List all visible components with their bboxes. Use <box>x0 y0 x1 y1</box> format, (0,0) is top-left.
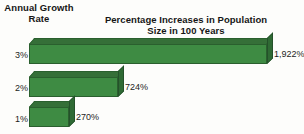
bar-row: 3% 1,922% <box>0 38 304 70</box>
bar-front-face <box>29 44 267 64</box>
chart-title-line-1: Percentage Increases in Population <box>78 14 294 25</box>
bar-row: 2% 724% <box>0 71 304 103</box>
bar-front-face <box>29 77 118 97</box>
value-label: 270% <box>76 112 99 123</box>
bar-3-percent <box>29 38 267 70</box>
chart-title: Percentage Increases in Population Size … <box>78 14 294 36</box>
bar-row: 1% 270% <box>0 101 304 133</box>
bar-side-face <box>69 95 75 127</box>
plot-area: 3% 1,922% 2% 724% 1% 270% <box>0 36 304 134</box>
bar-side-face <box>118 65 124 97</box>
y-axis-title-line-3: Rate <box>29 13 50 24</box>
bar-side-face <box>267 32 273 64</box>
chart-title-line-2: Size in 100 Years <box>78 25 294 36</box>
y-axis-title-line-1: Annual <box>4 2 37 13</box>
category-label: 1% <box>6 114 28 125</box>
bar-1-percent <box>29 101 69 133</box>
bar-front-face <box>29 107 69 127</box>
y-axis-title-line-2: Growth <box>40 2 74 13</box>
value-label: 724% <box>125 82 148 93</box>
category-label: 3% <box>6 50 28 61</box>
category-label: 2% <box>6 83 28 94</box>
value-label: 1,922% <box>274 49 304 60</box>
bar-chart: Annual Growth Rate Percentage Increases … <box>0 0 304 134</box>
y-axis-title: Annual Growth Rate <box>2 3 76 24</box>
